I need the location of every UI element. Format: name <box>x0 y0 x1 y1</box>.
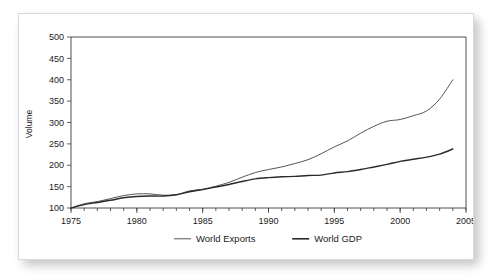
x-tick-label: 1995 <box>324 216 344 226</box>
y-tick-label: 450 <box>49 54 64 64</box>
x-axis-ticks: 1975198019851990199520002005 <box>61 208 473 226</box>
x-tick-label: 1980 <box>127 216 147 226</box>
y-tick-label: 300 <box>49 118 64 128</box>
chart-card: Volume 100150200250300350400450500 19751… <box>18 13 474 260</box>
x-tick-label: 1990 <box>258 216 278 226</box>
x-tick-label: 2000 <box>390 216 410 226</box>
x-tick-label: 1975 <box>61 216 81 226</box>
y-axis-ticks: 100150200250300350400450500 <box>49 32 71 213</box>
legend-label: World Exports <box>196 233 256 244</box>
chart-page: Volume 100150200250300350400450500 19751… <box>0 0 501 278</box>
series-group <box>71 80 453 208</box>
plot-frame <box>71 37 466 208</box>
line-chart: Volume 100150200250300350400450500 19751… <box>19 14 473 259</box>
series-line <box>71 149 453 208</box>
legend-label: World GDP <box>314 233 362 244</box>
y-tick-label: 500 <box>49 32 64 42</box>
x-tick-label: 1985 <box>193 216 213 226</box>
chart-legend: World ExportsWorld GDP <box>174 233 362 244</box>
x-tick-label: 2005 <box>456 216 473 226</box>
y-tick-label: 200 <box>49 160 64 170</box>
y-tick-label: 250 <box>49 139 64 149</box>
series-line <box>71 80 453 208</box>
y-tick-label: 150 <box>49 182 64 192</box>
y-axis-title: Volume <box>24 110 34 139</box>
y-tick-label: 400 <box>49 75 64 85</box>
y-tick-label: 100 <box>49 203 64 213</box>
y-tick-label: 350 <box>49 96 64 106</box>
